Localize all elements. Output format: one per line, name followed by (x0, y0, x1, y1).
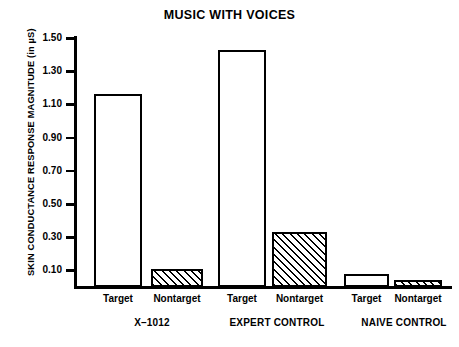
y-axis-line (74, 36, 77, 289)
bar-nontarget (394, 280, 442, 287)
chart-title: MUSIC WITH VOICES (0, 8, 459, 22)
y-axis-tick (66, 137, 75, 140)
y-axis-tick (66, 70, 75, 73)
bar-target (218, 50, 266, 287)
y-axis-tick-label: 1.50 (26, 33, 62, 43)
bar-target (94, 94, 142, 287)
chart-figure: MUSIC WITH VOICES SKIN CONDUCTANCE RESPO… (0, 0, 459, 347)
y-axis-tick-label: 1.30 (26, 66, 62, 76)
y-axis-tick (66, 37, 75, 40)
y-axis-tick (66, 103, 75, 106)
bar-nontarget (151, 269, 203, 287)
y-axis-tick-label: 0.70 (26, 166, 62, 176)
category-label: Nontarget (378, 293, 458, 305)
bar-nontarget (272, 232, 327, 287)
group-label: NAIVE CONTROL (334, 317, 459, 329)
y-axis-tick-label: 0.90 (26, 133, 62, 143)
y-axis-tick-label: 0.30 (26, 232, 62, 242)
y-axis-tick-label: 0.50 (26, 199, 62, 209)
y-axis-tick (66, 269, 75, 272)
y-axis-tick (66, 170, 75, 173)
bar-target (344, 274, 389, 287)
group-label: EXPERT CONTROL (207, 317, 347, 329)
y-axis-tick (66, 203, 75, 206)
y-axis-tick (66, 236, 75, 239)
y-axis-tick-label: 0.10 (26, 265, 62, 275)
group-label: X–1012 (82, 317, 222, 329)
y-axis-tick-label: 1.10 (26, 99, 62, 109)
